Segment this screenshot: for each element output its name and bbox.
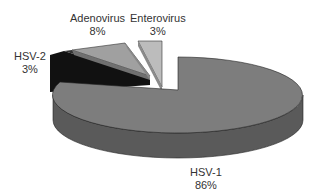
label-value: 86% (190, 179, 222, 192)
label-value: 8% (70, 25, 125, 38)
label-name: HSV-1 (190, 166, 222, 179)
label-value: 3% (130, 25, 186, 38)
label-adenovirus: Adenovirus 8% (70, 12, 125, 38)
label-enterovirus: Enterovirus 3% (130, 12, 186, 38)
label-value: 3% (14, 63, 46, 76)
label-hsv-1: HSV-1 86% (190, 166, 222, 192)
label-hsv-2: HSV-2 3% (14, 50, 46, 76)
label-name: HSV-2 (14, 50, 46, 63)
label-name: Enterovirus (130, 12, 186, 25)
label-name: Adenovirus (70, 12, 125, 25)
